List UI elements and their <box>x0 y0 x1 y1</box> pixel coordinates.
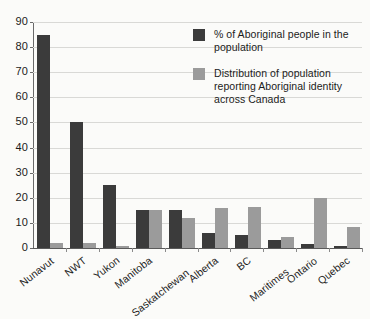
bar-group <box>37 22 63 248</box>
bar <box>83 243 96 248</box>
y-tick-label-40: 40 <box>2 142 28 153</box>
x-label-bc: BC <box>234 254 253 273</box>
legend-swatch-icon-dark <box>193 29 205 41</box>
y-tick-mark-80 <box>30 47 33 48</box>
y-tick-label-50: 50 <box>2 116 28 127</box>
y-tick-mark-60 <box>30 97 33 98</box>
y-tick-mark-0 <box>30 248 33 249</box>
x-tick-mark <box>66 248 67 252</box>
x-label-alberta: Alberta <box>186 254 220 284</box>
y-tick-label-30: 30 <box>2 167 28 178</box>
legend-entry-light: Distribution of population reporting Abo… <box>193 67 369 106</box>
bar <box>268 240 281 248</box>
bar <box>50 243 63 248</box>
bar <box>136 210 149 248</box>
bar <box>182 218 195 248</box>
bar <box>37 35 50 248</box>
bar <box>202 233 215 248</box>
bar <box>347 227 360 248</box>
legend-entry-dark: % of Aboriginal people in the population <box>193 28 369 54</box>
bar <box>334 246 347 249</box>
bar <box>215 208 228 248</box>
y-tick-mark-40 <box>30 148 33 149</box>
bar <box>103 185 116 248</box>
bar <box>314 198 327 248</box>
legend-label-light: Distribution of population reporting Abo… <box>214 67 369 106</box>
x-tick-mark <box>329 248 330 252</box>
x-tick-mark <box>198 248 199 252</box>
bar <box>70 122 83 248</box>
y-tick-label-90: 90 <box>2 16 28 27</box>
bar <box>235 235 248 248</box>
y-tick-mark-30 <box>30 173 33 174</box>
y-tick-mark-10 <box>30 223 33 224</box>
x-label-nunavut: Nunavut <box>17 254 56 288</box>
y-tick-label-70: 70 <box>2 66 28 77</box>
y-tick-label-0: 0 <box>2 242 28 253</box>
x-label-ontario: Ontario <box>284 254 319 285</box>
legend-swatch-icon-light <box>193 68 205 80</box>
bar <box>169 210 182 248</box>
y-tick-label-20: 20 <box>2 192 28 203</box>
bar-group <box>70 22 96 248</box>
bar <box>116 246 129 249</box>
x-tick-mark <box>165 248 166 252</box>
chart-legend: % of Aboriginal people in the population… <box>193 28 369 119</box>
x-tick-mark <box>99 248 100 252</box>
bar-group <box>136 22 162 248</box>
legend-label-dark: % of Aboriginal people in the population <box>214 28 369 54</box>
bar <box>248 207 261 248</box>
bar <box>301 244 314 248</box>
x-tick-mark <box>263 248 264 252</box>
y-tick-mark-20 <box>30 198 33 199</box>
bar-group <box>103 22 129 248</box>
x-tick-mark <box>362 248 363 252</box>
x-label-nwt: NWT <box>62 254 88 278</box>
y-tick-mark-50 <box>30 122 33 123</box>
y-tick-mark-90 <box>30 22 33 23</box>
x-tick-mark <box>296 248 297 252</box>
bar <box>281 237 294 248</box>
y-tick-label-60: 60 <box>2 91 28 102</box>
bar-group <box>169 22 195 248</box>
x-tick-mark <box>132 248 133 252</box>
x-label-quebec: Quebec <box>315 254 352 286</box>
x-label-maritimes: Maritimes <box>247 266 291 304</box>
x-tick-mark <box>230 248 231 252</box>
y-tick-label-10: 10 <box>2 217 28 228</box>
y-tick-label-80: 80 <box>2 41 28 52</box>
bar <box>149 210 162 248</box>
y-tick-mark-70 <box>30 72 33 73</box>
